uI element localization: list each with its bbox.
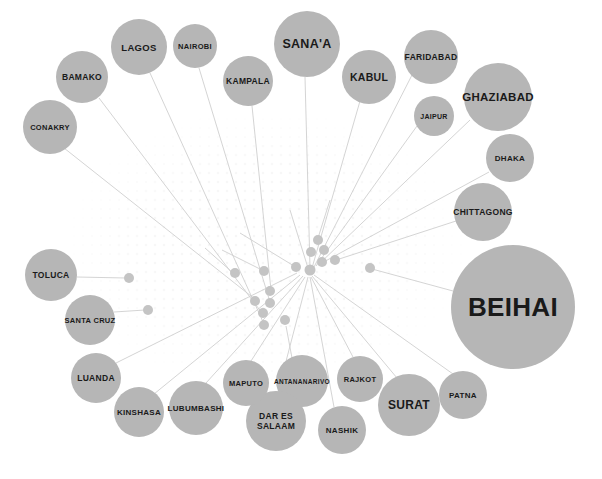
city-node[interactable]: SANA'A (274, 11, 340, 77)
city-label: CONAKRY (30, 123, 70, 132)
city-node[interactable]: LAGOS (111, 19, 167, 75)
city-label: KABUL (350, 71, 389, 83)
graph-edge (318, 120, 470, 265)
city-label: BAMAKO (62, 72, 102, 82)
graph-edge (114, 310, 145, 312)
minor-node[interactable] (265, 286, 275, 296)
city-label: DAR ESSALAAM (257, 411, 295, 431)
city-node[interactable]: SURAT (378, 374, 440, 436)
minor-node[interactable] (230, 268, 240, 278)
city-label: NAIROBI (178, 42, 212, 51)
city-label: CHITTAGONG (453, 207, 513, 217)
city-label: ANTANANARIVO (274, 378, 330, 385)
city-label: KINSHASA (117, 408, 161, 417)
city-node[interactable]: NASHIK (318, 406, 366, 454)
minor-node[interactable] (330, 255, 340, 265)
graph-edge (99, 98, 262, 313)
city-node[interactable]: LUANDA (71, 353, 121, 403)
city-node[interactable]: KINSHASA (114, 387, 164, 437)
city-node[interactable]: TOLUCA (25, 249, 77, 301)
city-node[interactable]: BEIHAI (451, 245, 575, 369)
graph-edge (150, 73, 264, 324)
city-label: NASHIK (326, 426, 358, 435)
city-label: TOLUCA (32, 270, 69, 280)
minor-node[interactable] (259, 266, 269, 276)
city-label: SURAT (388, 398, 430, 412)
city-label: LUANDA (77, 373, 115, 383)
city-node[interactable]: LUBUMBASHI (168, 381, 225, 435)
minor-node[interactable] (319, 245, 329, 255)
graph-edge (205, 248, 232, 272)
minor-node[interactable] (143, 305, 153, 315)
city-label: LUBUMBASHI (168, 404, 225, 413)
minor-node[interactable] (306, 247, 316, 257)
city-label: RAJKOT (344, 375, 377, 384)
graph-edge (252, 106, 271, 290)
graph-edge (290, 210, 308, 268)
city-label: KAMPALA (226, 76, 270, 86)
minor-node[interactable] (280, 315, 290, 325)
graph-edge (222, 250, 262, 270)
graph-edge (316, 126, 417, 266)
graph-edge (318, 200, 330, 238)
city-node[interactable]: KAMPALA (223, 56, 273, 106)
city-label: DHAKA (495, 154, 525, 163)
city-node[interactable]: FARIDABAD (404, 30, 458, 84)
city-node[interactable]: NAIROBI (173, 24, 217, 68)
city-node[interactable]: CONAKRY (23, 100, 77, 154)
minor-node[interactable] (317, 257, 327, 267)
minor-node[interactable] (265, 298, 275, 308)
city-label: SANTA CRUZ (65, 316, 116, 325)
minor-node[interactable] (250, 296, 260, 306)
minor-node[interactable] (291, 262, 301, 272)
city-nodes-layer: CONAKRYBAMAKOLAGOSNAIROBIKAMPALASANA'AKA… (23, 11, 575, 454)
city-label: GHAZIABAD (462, 91, 534, 103)
graph-edge (240, 233, 294, 266)
city-node[interactable]: BAMAKO (56, 51, 108, 103)
city-label: BEIHAI (468, 292, 558, 322)
minor-node[interactable] (258, 308, 268, 318)
diagram-canvas: CONAKRYBAMAKOLAGOSNAIROBIKAMPALASANA'AKA… (0, 0, 602, 479)
city-node[interactable]: DHAKA (486, 134, 534, 182)
city-label: PATNA (449, 391, 477, 400)
graph-edge (305, 77, 310, 268)
graph-edge (314, 75, 412, 267)
city-label: LAGOS (121, 42, 156, 53)
minor-node[interactable] (365, 263, 375, 273)
minor-node[interactable] (305, 265, 316, 276)
minor-node[interactable] (124, 273, 134, 283)
city-node[interactable]: PATNA (439, 371, 487, 419)
graph-edge (330, 221, 456, 262)
city-node[interactable]: SANTA CRUZ (65, 295, 116, 345)
minor-node[interactable] (313, 235, 323, 245)
city-label: SANA'A (282, 37, 331, 51)
city-node[interactable]: JAIPUR (414, 96, 454, 136)
graph-edge (372, 269, 453, 291)
city-node[interactable]: MAPUTO (223, 360, 269, 406)
city-node[interactable]: GHAZIABAD (462, 63, 534, 131)
network-graph: CONAKRYBAMAKOLAGOSNAIROBIKAMPALASANA'AKA… (0, 0, 602, 479)
city-node[interactable]: KABUL (342, 50, 396, 104)
graph-edge (77, 277, 126, 278)
city-label: MAPUTO (229, 379, 263, 388)
city-node[interactable]: RAJKOT (337, 356, 383, 402)
city-label: FARIDABAD (405, 52, 458, 62)
city-label: JAIPUR (420, 113, 447, 120)
city-node[interactable]: CHITTAGONG (453, 183, 513, 241)
graph-edge (314, 275, 453, 374)
minor-node[interactable] (259, 320, 269, 330)
